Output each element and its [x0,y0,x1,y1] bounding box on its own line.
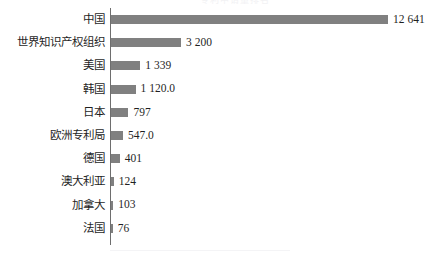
bar-and-value: 76 [111,217,129,240]
bar-and-value: 547.0 [111,124,154,147]
bar-row: 加拿大103 [0,194,439,217]
bar-and-value: 1 120.0 [111,78,175,101]
bar [111,108,128,117]
bar-and-value: 1 339 [111,54,171,77]
value-label: 76 [118,223,130,235]
bar-row: 日本797 [0,101,439,124]
bar-row: 德国401 [0,147,439,170]
value-label: 547.0 [128,130,154,142]
category-label: 日本 [83,101,105,124]
bar-row: 欧洲专利局547.0 [0,124,439,147]
category-label: 法国 [83,217,105,240]
category-label: 加拿大 [72,194,105,217]
bar [111,15,388,24]
bar-and-value: 797 [111,101,151,124]
value-label: 12 641 [393,14,425,26]
chart-title-remnant: 专利申请量排名 [110,0,360,4]
value-label: 401 [125,153,142,165]
baseline-smudge [110,250,290,251]
bar [111,38,181,47]
bar [111,224,113,233]
category-label: 德国 [83,147,105,170]
category-label: 世界知识产权组织 [17,31,105,54]
bar-row: 韩国1 120.0 [0,78,439,101]
bar-and-value: 12 641 [111,8,425,31]
bar [111,61,140,70]
bar-row: 法国76 [0,217,439,240]
category-label: 中国 [83,8,105,31]
bar [111,85,136,94]
bar-row: 中国12 641 [0,8,439,31]
bar-row: 世界知识产权组织3 200 [0,31,439,54]
bar-and-value: 3 200 [111,31,212,54]
category-label: 欧洲专利局 [50,124,105,147]
value-label: 124 [119,176,136,188]
value-label: 103 [118,199,135,211]
category-label: 澳大利亚 [61,170,105,193]
value-label: 797 [133,107,150,119]
bar [111,154,120,163]
category-label: 美国 [83,54,105,77]
bar-and-value: 124 [111,170,136,193]
bar-rows-container: 中国12 641世界知识产权组织3 200美国1 339韩国1 120.0日本7… [0,8,439,245]
bar [111,177,114,186]
value-label: 3 200 [186,37,212,49]
bar-row: 美国1 339 [0,54,439,77]
bar [111,131,123,140]
value-label: 1 339 [145,60,171,72]
bar-and-value: 401 [111,147,142,170]
bar-chart-figure: 专利申请量排名 中国12 641世界知识产权组织3 200美国1 339韩国1 … [0,0,439,257]
category-label: 韩国 [83,78,105,101]
bar-row: 澳大利亚124 [0,170,439,193]
bar [111,201,113,210]
value-label: 1 120.0 [141,83,176,95]
bar-and-value: 103 [111,194,136,217]
